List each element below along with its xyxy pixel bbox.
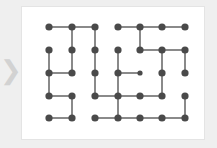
graph-node[interactable] xyxy=(91,69,98,76)
graph-node[interactable] xyxy=(68,92,75,99)
graph-node[interactable] xyxy=(114,46,121,53)
graph-node[interactable] xyxy=(181,92,188,99)
graph-node[interactable] xyxy=(158,46,165,53)
graph-node[interactable] xyxy=(136,46,143,53)
graph-node[interactable] xyxy=(68,69,75,76)
graph-node[interactable] xyxy=(114,114,121,121)
graph-node[interactable] xyxy=(114,92,121,99)
graph-node[interactable] xyxy=(181,114,188,121)
graph-node[interactable] xyxy=(45,23,52,30)
graph-node[interactable] xyxy=(68,114,75,121)
graph-node[interactable] xyxy=(91,46,98,53)
graph-node[interactable] xyxy=(45,114,52,121)
graph-card xyxy=(21,6,205,140)
graph-node[interactable] xyxy=(158,114,165,121)
graph-node[interactable] xyxy=(136,114,143,121)
graph-node[interactable] xyxy=(181,46,188,53)
lattice-graph xyxy=(22,7,204,139)
graph-node[interactable] xyxy=(68,23,75,30)
graph-node[interactable] xyxy=(45,69,52,76)
previous-arrow-icon[interactable]: ❯ xyxy=(0,56,14,84)
graph-node[interactable] xyxy=(91,92,98,99)
graph-node[interactable] xyxy=(91,23,98,30)
graph-node[interactable] xyxy=(68,46,75,53)
app-root: ❯ xyxy=(0,0,217,148)
graph-node[interactable] xyxy=(158,69,165,76)
graph-node[interactable] xyxy=(91,114,98,121)
graph-node[interactable] xyxy=(137,70,142,75)
graph-node[interactable] xyxy=(136,23,143,30)
graph-node[interactable] xyxy=(136,92,143,99)
graph-node[interactable] xyxy=(114,69,121,76)
graph-node[interactable] xyxy=(158,92,165,99)
graph-node[interactable] xyxy=(181,69,188,76)
graph-node[interactable] xyxy=(45,92,52,99)
graph-node[interactable] xyxy=(45,46,52,53)
graph-node[interactable] xyxy=(114,23,121,30)
graph-node[interactable] xyxy=(158,23,165,30)
graph-node[interactable] xyxy=(181,23,188,30)
